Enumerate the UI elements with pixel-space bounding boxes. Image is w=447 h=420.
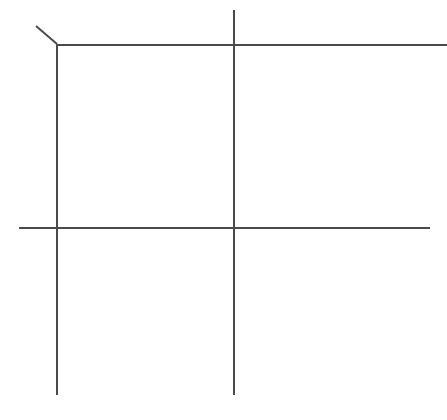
line-sketch-svg [0, 0, 447, 420]
drawing-canvas [0, 0, 447, 420]
canvas-background [0, 0, 447, 420]
